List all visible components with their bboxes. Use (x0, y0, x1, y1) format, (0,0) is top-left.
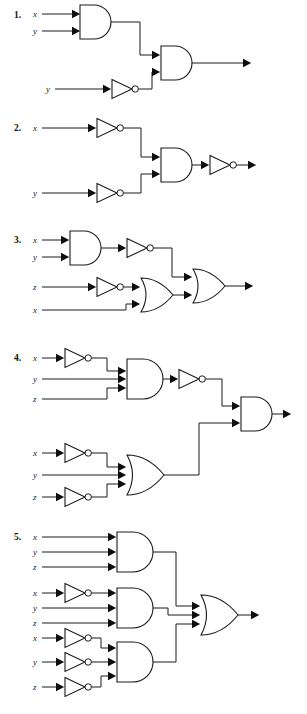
circuit-4-input-label-x2: x (32, 448, 37, 458)
circuit-5-input-label-z2: z (32, 618, 37, 628)
input-arrowhead (152, 51, 160, 59)
output-arrowhead (245, 282, 253, 290)
circuit-3-input-label-x: x (32, 235, 37, 245)
circuit-5-input-label-y: y (32, 547, 37, 557)
circuit-3-input-label-y: y (32, 252, 37, 262)
and-gate (161, 148, 192, 182)
not-gate (112, 80, 138, 99)
circuit-1-input-label-x: x (32, 9, 37, 19)
circuit-2-input-label-y: y (32, 188, 37, 198)
input-arrowhead (192, 611, 200, 619)
or-gate (201, 595, 238, 635)
input-arrowhead (152, 170, 160, 178)
not-gate (65, 444, 91, 463)
not-gate (65, 653, 91, 672)
circuit-5-number: 5. (14, 532, 21, 542)
input-arrowhead (184, 273, 192, 281)
circuit-5-input-label-x: x (32, 532, 37, 542)
input-arrowhead (192, 602, 200, 610)
circuit-5-input-label-y3: y (32, 657, 37, 667)
circuit-4-input-label-x: x (32, 353, 37, 363)
circuit-4-input-label-z: z (32, 394, 37, 404)
input-arrowhead (108, 548, 116, 556)
input-arrowhead (118, 244, 126, 252)
input-arrowhead (108, 533, 116, 541)
circuit-3: 3. x y z x (14, 231, 253, 315)
input-arrowhead (88, 189, 96, 197)
not-gate (97, 119, 123, 138)
not-gate (179, 370, 205, 389)
output-arrowhead (283, 410, 291, 418)
circuit-1-input-label-y2: y (45, 84, 50, 94)
circuit-1: 1. x y y (14, 5, 251, 99)
or-gate (127, 455, 164, 495)
input-arrowhead (56, 589, 64, 597)
input-arrowhead (132, 283, 140, 291)
input-arrowhead (152, 68, 160, 76)
input-arrowhead (118, 367, 126, 375)
input-arrowhead (118, 471, 126, 479)
input-arrowhead (170, 375, 178, 383)
not-gate (65, 584, 91, 603)
circuit-2-input-label-x: x (32, 123, 37, 133)
circuit-5-input-label-z3: z (32, 682, 37, 692)
circuit-5-input-label-z: z (32, 562, 37, 572)
input-arrowhead (72, 10, 80, 18)
input-arrowhead (72, 27, 80, 35)
input-arrowhead (88, 283, 96, 291)
input-arrowhead (118, 480, 126, 488)
not-gate (65, 349, 91, 368)
or-gate (193, 269, 225, 303)
not-gate (210, 156, 236, 175)
input-arrowhead (184, 291, 192, 299)
circuit-5-input-label-y2: y (32, 603, 37, 613)
input-arrowhead (108, 658, 116, 666)
input-arrowhead (118, 463, 126, 471)
and-gate (117, 532, 153, 572)
circuit-diagram-page: 1. x y y (0, 0, 307, 714)
input-arrowhead (232, 402, 240, 410)
not-gate (65, 629, 91, 648)
or-gate (141, 278, 173, 312)
input-arrowhead (192, 620, 200, 628)
input-arrowhead (56, 449, 64, 457)
and-gate (117, 642, 153, 682)
input-arrowhead (108, 589, 116, 597)
and-gate (70, 231, 101, 265)
circuit-1-number: 1. (14, 10, 21, 20)
circuit-5: 5. x y z x y z x y z (14, 532, 259, 697)
input-arrowhead (88, 124, 96, 132)
circuit-1-input-label-y: y (32, 26, 37, 36)
and-gate (80, 5, 111, 39)
input-arrowhead (108, 604, 116, 612)
circuit-5-input-label-x3: x (32, 633, 37, 643)
circuit-4-number: 4. (14, 353, 21, 363)
input-arrowhead (132, 300, 140, 308)
input-arrowhead (56, 634, 64, 642)
circuit-4: 4. x y z x y z (14, 349, 291, 507)
input-arrowhead (152, 153, 160, 161)
circuit-3-number: 3. (14, 235, 21, 245)
and-gate (127, 359, 163, 399)
circuit-5-input-label-x2: x (32, 588, 37, 598)
circuit-2-number: 2. (14, 123, 21, 133)
input-arrowhead (118, 375, 126, 383)
not-gate (65, 488, 91, 507)
input-arrowhead (61, 253, 69, 261)
output-arrowhead (248, 161, 256, 169)
circuit-2: 2. x y (14, 119, 256, 203)
input-arrowhead (232, 419, 240, 427)
input-arrowhead (108, 644, 116, 652)
circuit-4-input-label-y: y (32, 374, 37, 384)
and-gate (161, 46, 192, 80)
not-gate (97, 184, 123, 203)
circuit-3-input-label-x2: x (32, 305, 37, 315)
input-arrowhead (103, 85, 111, 93)
input-arrowhead (61, 236, 69, 244)
input-arrowhead (118, 384, 126, 392)
not-gate (127, 239, 153, 258)
input-arrowhead (108, 672, 116, 680)
not-gate (65, 678, 91, 697)
input-arrowhead (108, 619, 116, 627)
input-arrowhead (201, 161, 209, 169)
